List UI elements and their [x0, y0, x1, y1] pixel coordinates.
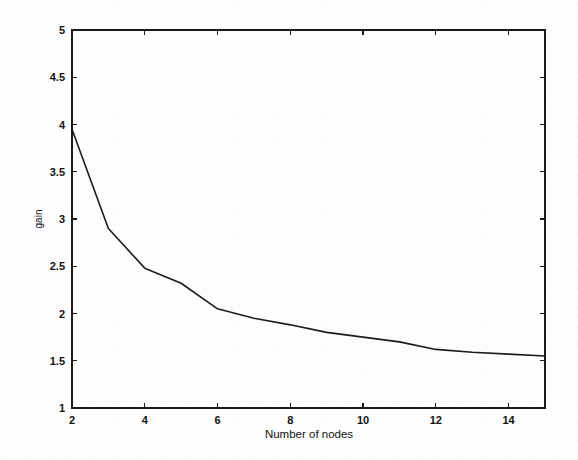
x-tick-label: 12 [430, 414, 442, 426]
x-tick-label: 2 [69, 414, 75, 426]
y-axis-title: gain [33, 210, 44, 229]
gain-data-curve [72, 129, 545, 356]
x-axis-ticks [72, 30, 509, 408]
y-tick-label: 5 [59, 24, 65, 36]
y-axis-ticks [72, 30, 545, 408]
plot-frame-border [72, 30, 545, 408]
y-tick-label: 4 [59, 119, 66, 131]
y-tick-label: 3.5 [50, 166, 65, 178]
x-tick-label: 14 [502, 414, 515, 426]
y-tick-label: 3 [59, 213, 65, 225]
y-tick-label: 2.5 [50, 260, 65, 272]
axis-frame [72, 30, 545, 408]
x-axis-title: Number of nodes [265, 428, 353, 440]
x-tick-label: 8 [287, 414, 293, 426]
x-tick-label: 4 [142, 414, 149, 426]
chart-figure: 11.522.533.544.55 2468101214 Number of n… [0, 0, 578, 460]
y-tick-label: 2 [59, 308, 65, 320]
x-axis-tick-labels: 2468101214 [69, 414, 516, 426]
x-tick-label: 6 [214, 414, 220, 426]
y-axis-tick-labels: 11.522.533.544.55 [50, 24, 66, 414]
line-chart-plot: 11.522.533.544.55 2468101214 Number of n… [0, 0, 578, 460]
y-tick-label: 1.5 [50, 355, 65, 367]
y-tick-label: 4.5 [50, 71, 65, 83]
x-tick-label: 10 [357, 414, 369, 426]
y-tick-label: 1 [59, 402, 65, 414]
